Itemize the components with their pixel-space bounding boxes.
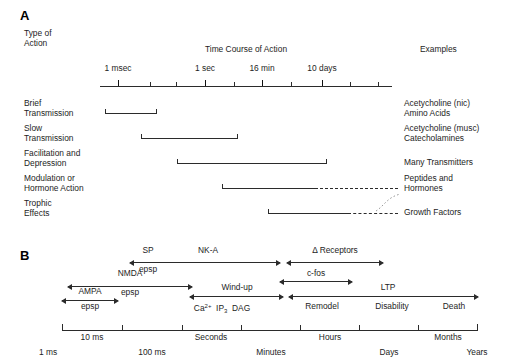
panel-b-label-death: Death xyxy=(443,302,465,312)
panel-b-upper-label-3: Months xyxy=(434,333,461,343)
panel-a-major-tick-2 xyxy=(262,80,263,86)
panel-a-letter: A xyxy=(20,8,29,23)
panel-b-upper-label-2: Hours xyxy=(319,333,341,343)
calcium-charge-text: 2+ xyxy=(205,303,212,309)
panel-a-tick-label-3: 10 days xyxy=(307,64,336,74)
panel-b-label-c-fos: c-fos xyxy=(307,269,325,279)
panel-b-lower-label-0: 1 ms xyxy=(39,348,57,358)
panel-a-row-2-example-line1: Many Transmitters xyxy=(404,158,473,168)
panel-b-lower-label-2: Minutes xyxy=(256,348,285,358)
panel-b-label-nmda: NMDA xyxy=(118,269,143,279)
panel-a-minor-tick-1 xyxy=(176,82,177,86)
calcium-ion-text: Ca xyxy=(194,303,205,313)
panel-a-left-header-line2: Action xyxy=(24,39,47,49)
panel-b-tick-3 xyxy=(241,325,242,331)
panel-b-tick-2 xyxy=(182,325,183,331)
panel-b-axis-line xyxy=(62,330,478,331)
panel-b-tick-5 xyxy=(359,325,360,331)
panel-b-lower-label-4: Years xyxy=(466,348,487,358)
panel-a-minor-tick-5 xyxy=(378,82,379,86)
panel-a-minor-tick-4 xyxy=(350,82,351,86)
panel-b-arrow-delta-receptors xyxy=(287,262,383,263)
panel-b-label-sp: SP xyxy=(142,246,153,256)
panel-a-row-0-example-line2: Amino Acids xyxy=(404,109,450,119)
panel-a-row-1-label-line2: Transmission xyxy=(24,134,74,144)
panel-b-label-nka: NK-A xyxy=(198,246,218,256)
panel-a-row-2-label-line2: Depression xyxy=(24,159,66,169)
panel-a-major-tick-0 xyxy=(118,80,119,86)
panel-a-major-tick-1 xyxy=(205,80,206,86)
panel-a-minor-tick-0 xyxy=(150,82,151,86)
panel-a-axis-title: Time Course of Action xyxy=(205,45,287,55)
panel-b-label-remodel: Remodel xyxy=(305,302,339,312)
panel-b-arrow-ltp xyxy=(289,296,478,297)
panel-b-upper-label-1: Seconds xyxy=(195,333,228,343)
panel-a-major-tick-3 xyxy=(322,80,323,86)
panel-a-minor-tick-2 xyxy=(234,82,235,86)
panel-b-label-delta-receptors: Δ Receptors xyxy=(312,246,358,256)
panel-b-tick-6 xyxy=(418,325,419,331)
panel-a-tick-label-1: 1 sec xyxy=(195,64,215,74)
panel-b-arrow-c-fos xyxy=(280,281,352,282)
panel-b-lower-label-1: 100 ms xyxy=(138,348,165,358)
panel-a-row-1-example-line2: Catecholamines xyxy=(404,134,464,144)
panel-b-axis-cap-right xyxy=(477,324,478,331)
panel-b-tick-4 xyxy=(300,325,301,331)
panel-b-label-windup: Wind-up xyxy=(221,283,252,293)
panel-a-axis-line xyxy=(100,86,392,87)
panel-b-label-nmda-epsp: epsp xyxy=(121,288,139,298)
panel-a-row-3-label-line2: Hormone Action xyxy=(24,184,84,194)
panel-a-minor-tick-3 xyxy=(291,82,292,86)
panel-a-row-4-label-line2: Effects xyxy=(24,209,49,219)
panel-a-connector-squiggle xyxy=(375,191,401,213)
panel-a-row-4-example-line1: Growth Factors xyxy=(404,208,461,218)
panel-a-row-3-example-line2: Hormones xyxy=(404,184,443,194)
figure-container: A Type of Action Time Course of Action E… xyxy=(0,0,506,362)
panel-a-tick-label-2: 16 min xyxy=(249,64,274,74)
panel-b-label-ampa-epsp: epsp xyxy=(81,302,99,312)
panel-b-label-ltp: LTP xyxy=(381,283,396,293)
panel-b-letter: B xyxy=(20,248,29,263)
panel-a-tick-label-0: 1 msec xyxy=(105,64,132,74)
panel-b-label-disability: Disability xyxy=(375,302,409,312)
panel-b-label-ampa: AMPA xyxy=(78,287,101,297)
panel-b-tick-1 xyxy=(122,325,123,331)
panel-b-label-calcium-ip3: Ca2+ IP3 DAG xyxy=(194,302,250,317)
panel-a-row-0-label-line2: Transmission xyxy=(24,109,74,119)
dag-text: DAG xyxy=(232,303,250,313)
ip3-sub-text: 3 xyxy=(224,308,227,314)
panel-b-lower-label-3: Days xyxy=(379,348,398,358)
panel-a-right-header: Examples xyxy=(420,45,457,55)
ip3-main-text: IP xyxy=(216,303,224,313)
panel-b-arrow-windup xyxy=(190,296,283,297)
panel-b-upper-label-0: 10 ms xyxy=(81,333,104,343)
panel-b-arrow-sp-nka xyxy=(130,262,280,263)
panel-b-axis-cap-left xyxy=(62,324,63,331)
